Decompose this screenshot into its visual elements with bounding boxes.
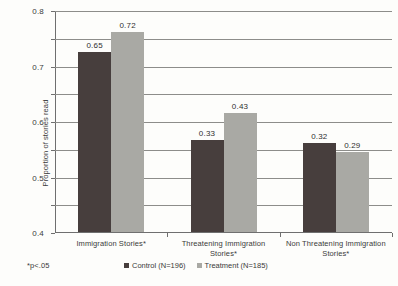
gridline xyxy=(55,11,392,12)
legend-label: Control (N=196) xyxy=(132,261,186,270)
gridline xyxy=(55,39,392,40)
y-axis-tick: 0.3 xyxy=(51,150,55,151)
bar-value-label: 0.29 xyxy=(344,141,360,150)
chart-legend: Control (N=196)Treatment (N=185) xyxy=(124,261,268,270)
y-axis-tick: 0.2 xyxy=(51,178,55,179)
x-axis-category-label: Non Threatening Immigration Stories* xyxy=(280,239,392,258)
y-axis-tick: 0 xyxy=(51,233,55,234)
bar-value-label: 0.33 xyxy=(199,129,215,138)
bar-chart-figure: Proportion of stories read 00.10.20.30.4… xyxy=(0,0,398,286)
bar-value-label: 0.72 xyxy=(119,21,135,30)
y-axis-tick-label: 0.7 xyxy=(32,62,44,71)
legend-item-control: Control (N=196) xyxy=(124,261,186,270)
legend-label: Treatment (N=185) xyxy=(205,261,268,270)
legend-swatch-icon xyxy=(124,263,129,268)
bar-control: 0.65 xyxy=(78,52,111,232)
legend-item-treatment: Treatment (N=185) xyxy=(197,261,268,270)
significance-footnote: *p<.05 xyxy=(27,261,50,270)
plot-area: 00.10.20.30.40.50.60.70.8 0.650.720.330.… xyxy=(55,11,392,233)
x-axis-category-tick xyxy=(280,233,281,237)
x-axis-category-tick xyxy=(167,233,168,237)
y-axis-tick: 0.8 xyxy=(51,11,55,12)
bar-value-label: 0.43 xyxy=(232,102,248,111)
x-axis-line xyxy=(55,232,392,233)
legend-swatch-icon xyxy=(197,263,202,268)
bar-treatment: 0.29 xyxy=(336,152,369,232)
bar-treatment: 0.72 xyxy=(111,32,144,232)
y-axis-tick: 0.4 xyxy=(51,122,55,123)
bar-value-label: 0.65 xyxy=(86,41,102,50)
bar-control: 0.32 xyxy=(303,143,336,232)
y-axis-tick: 0.5 xyxy=(51,94,55,95)
y-axis-tick-label: 0.4 xyxy=(32,229,44,238)
y-axis-tick-label: 0.8 xyxy=(32,7,44,16)
y-axis-tick-label: 0.5 xyxy=(32,173,44,182)
bar-value-label: 0.32 xyxy=(311,132,327,141)
x-axis-end-tick xyxy=(392,233,393,237)
bar-control: 0.33 xyxy=(191,140,224,232)
y-axis-tick: 0.1 xyxy=(51,205,55,206)
y-axis-tick: 0.7 xyxy=(51,39,55,40)
y-axis-tick-label: 0.6 xyxy=(32,118,44,127)
x-axis-category-label: Immigration Stories* xyxy=(55,239,167,249)
y-axis-tick: 0.6 xyxy=(51,67,55,68)
x-axis-category-label: Threatening Immigration Stories* xyxy=(167,239,279,258)
bar-treatment: 0.43 xyxy=(224,113,257,232)
